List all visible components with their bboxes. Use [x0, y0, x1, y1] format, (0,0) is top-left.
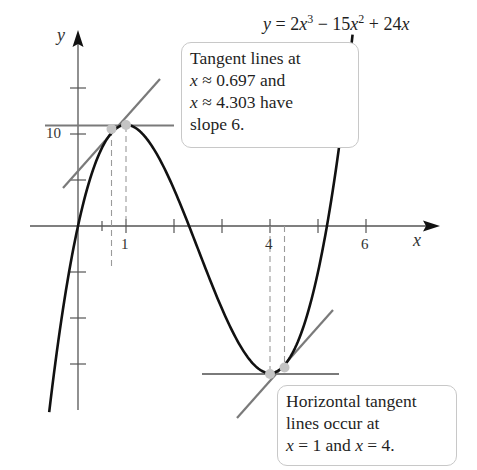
callout-slope-six: Tangent lines at x ≈ 0.697 and x ≈ 4.303… [181, 42, 359, 148]
point-x-1 [121, 120, 131, 130]
x-tick-label-6: 6 [361, 236, 369, 253]
equation-label: y = 2x3 − 15x2 + 24x [263, 12, 409, 35]
callout-horizontal-tangent: Horizontal tangent lines occur at x = 1 … [277, 385, 457, 466]
x-axis [30, 221, 440, 232]
x-tick-label-4: 4 [265, 236, 273, 253]
point-x-0697 [107, 124, 117, 134]
y-axis-label: y [57, 25, 65, 46]
point-x-4303 [280, 363, 290, 373]
y-tick-label-10: 10 [46, 125, 61, 142]
x-tick-label-1: 1 [121, 236, 129, 253]
y-axis [73, 30, 84, 410]
x-axis-label: x [413, 230, 421, 251]
point-x-4 [265, 369, 275, 379]
